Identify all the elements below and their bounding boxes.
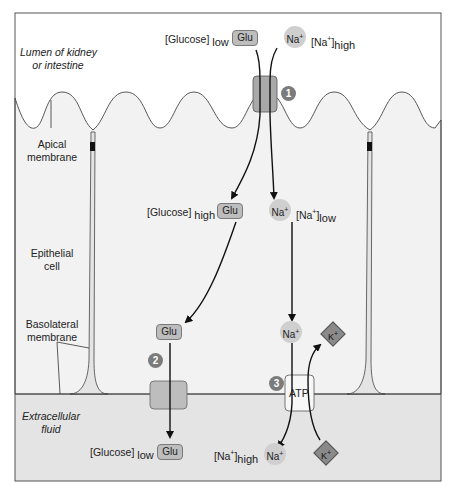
atp-label: ATP <box>289 387 309 400</box>
tight-junction-left <box>90 142 95 151</box>
glucose-lumen-conc: [Glucose] low <box>165 33 229 46</box>
potassium-ecf: K+ <box>317 444 335 462</box>
potassium-cell: K+ <box>324 325 342 343</box>
glucose-near-basolateral: Glu <box>156 324 182 340</box>
tight-junction-right <box>367 142 372 151</box>
epithelial-cell-label: Epithelialcell <box>22 247 82 273</box>
apical-membrane-label: Apicalmembrane <box>22 138 82 164</box>
glut-transporter <box>150 381 187 409</box>
glucose-ecf: Glu <box>157 444 183 460</box>
sglt-transporter <box>253 76 277 112</box>
sodium-ecf-conc: [Na+]high <box>214 446 258 463</box>
extracellular-region <box>15 394 441 481</box>
step-2-badge: 2 <box>148 353 163 368</box>
basolateral-membrane-label: Basolateralmembrane <box>18 318 86 344</box>
glucose-cell-conc: [Glucose] high <box>147 206 215 219</box>
glucose-ecf-conc: [Glucose] low <box>90 446 154 459</box>
step-3-badge: 3 <box>269 376 284 391</box>
sodium-near-pump: Na+ <box>280 321 302 343</box>
glucose-cell: Glu <box>217 203 243 219</box>
step-1-badge: 1 <box>281 86 296 101</box>
extracellular-fluid-label: Extracellularfluid <box>18 410 84 436</box>
lumen-label: Lumen of kidneyor intestine <box>20 46 96 72</box>
sodium-cell-conc: [Na+]low <box>296 205 336 222</box>
sodium-lumen: Na+ <box>284 26 306 48</box>
sodium-ecf: Na+ <box>264 443 286 465</box>
glucose-lumen: Glu <box>232 30 258 46</box>
sodium-cell: Na+ <box>269 199 291 221</box>
sodium-lumen-conc: [Na+]high <box>311 32 355 49</box>
